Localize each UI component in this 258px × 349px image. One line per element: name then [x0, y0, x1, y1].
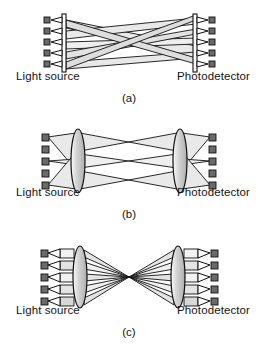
- source-array-b: [42, 134, 49, 189]
- panel-a: Light source Photodetector (a): [0, 0, 258, 115]
- photodetector-label-b: Photodetector: [177, 186, 250, 198]
- source-array-c: [41, 249, 60, 306]
- source-lens-c: [73, 246, 87, 308]
- panel-c-labels: Light source Photodetector: [0, 304, 258, 318]
- focus-beam-group-right-c: [129, 250, 174, 305]
- detector-channel-group-c: [184, 249, 198, 306]
- panel-c: Light source Photodetector (c): [0, 232, 258, 349]
- beam-group-a: [66, 15, 196, 69]
- detector-array-a: [197, 17, 215, 67]
- source-array-a: [44, 17, 62, 67]
- panel-a-labels: Light source Photodetector: [0, 70, 258, 84]
- light-source-label-c: Light source: [16, 304, 80, 316]
- light-source-label-a: Light source: [16, 70, 80, 82]
- focus-beam-group-left-c: [84, 250, 129, 305]
- detector-lens-c: [171, 246, 185, 308]
- source-channel-group-c: [60, 249, 74, 306]
- optical-interconnect-figure: Light source Photodetector (a): [0, 0, 258, 349]
- crossover-beam-group-b: [80, 133, 177, 189]
- panel-b-labels: Light source Photodetector: [0, 186, 258, 200]
- detector-bus-bar-a: [193, 14, 197, 72]
- panel-b: Light source Photodetector (b): [0, 115, 258, 232]
- detector-array-b: [209, 134, 216, 189]
- panel-a-caption: (a): [0, 92, 258, 104]
- panel-b-caption: (b): [0, 208, 258, 220]
- detector-lens-b: [173, 129, 187, 193]
- detector-array-c: [198, 249, 218, 306]
- light-source-label-b: Light source: [16, 186, 80, 198]
- photodetector-label-a: Photodetector: [177, 70, 250, 82]
- source-bus-bar-a: [62, 14, 66, 72]
- source-lens-b: [71, 129, 85, 193]
- photodetector-label-c: Photodetector: [177, 304, 250, 316]
- panel-c-caption: (c): [0, 326, 258, 338]
